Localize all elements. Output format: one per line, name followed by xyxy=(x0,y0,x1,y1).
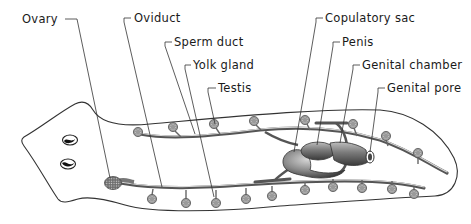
label-copulatory-sac: Copulatory sac xyxy=(325,11,415,25)
label-testis: Testis xyxy=(217,81,252,95)
labels: Ovary Oviduct Sperm duct Yolk gland Test… xyxy=(22,11,462,95)
label-sperm-duct: Sperm duct xyxy=(174,35,244,49)
label-genital-pore: Genital pore xyxy=(387,81,461,95)
body-outline xyxy=(22,102,457,211)
planarian-diagram: Ovary Oviduct Sperm duct Yolk gland Test… xyxy=(0,0,471,224)
label-genital-chamber: Genital chamber xyxy=(362,58,462,72)
label-penis: Penis xyxy=(342,35,374,49)
label-ovary: Ovary xyxy=(22,12,58,26)
label-yolk-gland: Yolk gland xyxy=(192,58,254,72)
label-oviduct: Oviduct xyxy=(134,11,181,25)
